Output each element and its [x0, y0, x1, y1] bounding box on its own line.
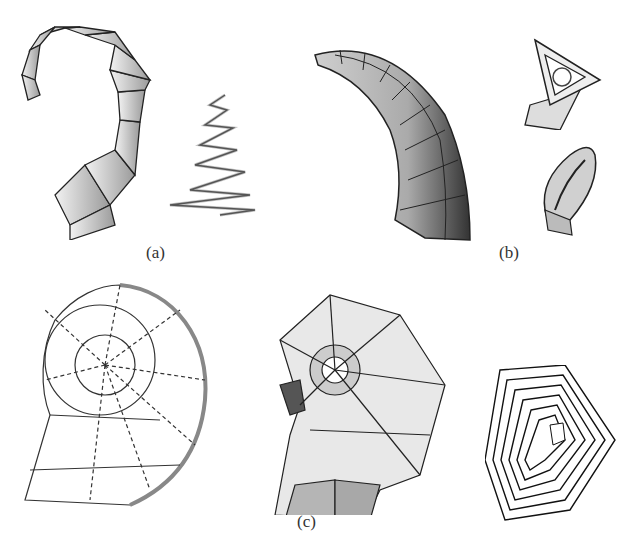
panel-label-c: (c) [297, 512, 316, 532]
panel-b: (b) [280, 20, 631, 250]
panel-a: (a) [0, 0, 280, 240]
oval-ring-model [530, 140, 605, 240]
panel-c: (c) [0, 270, 631, 543]
panel-label-b: (b) [499, 243, 519, 263]
planispiral-shell-wireframe [0, 270, 215, 515]
triangular-frame-model [520, 35, 615, 130]
hexagonal-tube-stack [485, 365, 620, 525]
zigzag-spiral-model [165, 90, 265, 220]
panel-label-a: (a) [146, 243, 165, 263]
shaded-spiral-shell [270, 285, 450, 515]
